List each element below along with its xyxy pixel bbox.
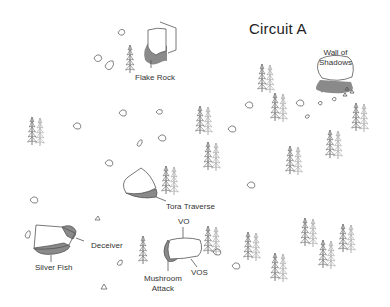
boulder-flake-rock: [144, 22, 176, 68]
label-silver-fish: Silver Fish: [35, 263, 72, 273]
label-mushroom-attack-line1: Mushroom: [144, 274, 182, 284]
boulder-silver-fish: [34, 225, 84, 262]
label-flake-rock: Flake Rock: [135, 73, 175, 83]
boulder-tora-traverse: [123, 168, 166, 201]
map-drawing: [0, 0, 390, 307]
label-tora-traverse: Tora Traverse: [166, 202, 215, 212]
label-wall-of-shadows-line1: Wall of: [319, 48, 352, 58]
circuit-map: Circuit A Flake Rock Wall of Shadows Tor…: [0, 0, 390, 307]
label-mushroom-attack: Mushroom Attack: [144, 274, 182, 294]
label-wall-of-shadows: Wall of Shadows: [319, 48, 352, 68]
boulder-vo: [164, 227, 202, 271]
label-vo: VO: [178, 217, 190, 227]
label-vos: VOS: [191, 268, 208, 278]
label-mushroom-attack-line2: Attack: [144, 284, 182, 294]
label-wall-of-shadows-line2: Shadows: [319, 58, 352, 68]
label-deceiver: Deceiver: [91, 241, 123, 251]
map-title: Circuit A: [249, 20, 307, 37]
